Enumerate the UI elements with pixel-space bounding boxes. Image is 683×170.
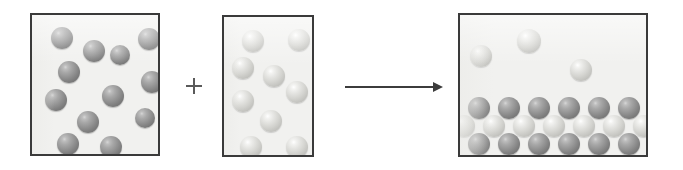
- dark-sphere: [141, 71, 160, 93]
- light-sphere: [263, 65, 285, 87]
- dark-sphere: [135, 108, 155, 128]
- lattice-dark-sphere: [498, 97, 520, 119]
- dark-sphere: [83, 40, 105, 62]
- light-sphere: [240, 136, 262, 157]
- light-sphere: [232, 57, 254, 79]
- lattice-light-sphere: [513, 115, 535, 137]
- lattice-light-sphere: [633, 115, 648, 137]
- lattice-dark-sphere: [618, 133, 640, 155]
- lattice-light-sphere: [573, 115, 595, 137]
- lattice-dark-sphere: [468, 133, 490, 155]
- light-sphere: [232, 90, 254, 112]
- lattice-dark-sphere: [558, 133, 580, 155]
- light-sphere: [286, 136, 308, 157]
- lattice-light-sphere: [483, 115, 505, 137]
- dark-sphere: [138, 28, 160, 50]
- diagram-title: Chemical reaction particle diagram: [0, 0, 1, 1]
- reactant-b-box: [222, 15, 314, 157]
- lattice-dark-sphere: [498, 133, 520, 155]
- dark-sphere: [51, 27, 73, 49]
- light-sphere: [260, 110, 282, 132]
- arrow-shaft: [345, 86, 434, 88]
- free-light-sphere: [470, 45, 492, 67]
- lattice-dark-sphere: [528, 97, 550, 119]
- lattice-dark-sphere: [618, 97, 640, 119]
- plus-vertical-bar: [193, 78, 195, 94]
- lattice-light-sphere: [543, 115, 565, 137]
- reaction-diagram-canvas: Chemical reaction particle diagram + yie…: [0, 0, 683, 170]
- product-box: [458, 13, 648, 157]
- dark-sphere: [58, 61, 80, 83]
- arrow-head: [433, 82, 443, 92]
- dark-sphere: [45, 89, 67, 111]
- dark-sphere: [77, 111, 99, 133]
- dark-sphere: [100, 136, 122, 156]
- lattice-dark-sphere: [468, 97, 490, 119]
- reactant-a-box: [30, 13, 160, 156]
- reaction-arrow-label: yields: [345, 82, 346, 83]
- free-light-sphere: [517, 29, 541, 53]
- lattice-dark-sphere: [588, 133, 610, 155]
- plus-operator-label: +: [186, 78, 187, 79]
- reaction-arrow-icon: yields: [345, 82, 443, 92]
- lattice-dark-sphere: [528, 133, 550, 155]
- light-sphere: [286, 81, 308, 103]
- light-sphere: [242, 30, 264, 52]
- lattice-dark-sphere: [558, 97, 580, 119]
- plus-operator-icon: +: [186, 78, 202, 94]
- free-light-sphere: [570, 59, 592, 81]
- dark-sphere: [110, 45, 130, 65]
- lattice-dark-sphere: [588, 97, 610, 119]
- dark-sphere: [102, 85, 124, 107]
- lattice-light-sphere: [603, 115, 625, 137]
- dark-sphere: [57, 133, 79, 155]
- light-sphere: [288, 29, 310, 51]
